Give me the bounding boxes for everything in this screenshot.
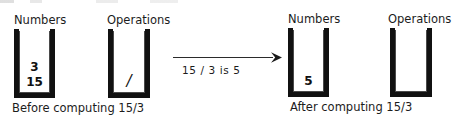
before-operations-stack-interior: / xyxy=(113,31,145,93)
arrow-label: 15 / 3 is 5 xyxy=(182,64,241,77)
after-numbers-stack-title: Numbers xyxy=(288,12,340,26)
stack-item: / xyxy=(126,73,131,90)
after-numbers-stack-interior: 5 xyxy=(293,30,324,92)
after-numbers-stack[interactable]: 5 xyxy=(288,28,329,97)
stack-item: 5 xyxy=(304,74,312,89)
figure-canvas: Numbers 3 15 Operations / Before computi… xyxy=(0,0,460,120)
scan-artifact xyxy=(0,0,460,3)
after-caption: After computing 15/3 xyxy=(290,100,412,114)
before-numbers-stack-interior: 3 15 xyxy=(19,31,50,93)
after-operations-stack-title: Operations xyxy=(388,12,451,26)
before-caption: Before computing 15/3 xyxy=(12,101,144,115)
stack-item: 15 xyxy=(26,75,43,90)
after-operations-stack[interactable] xyxy=(390,28,432,97)
stack-item: 3 xyxy=(30,60,38,75)
before-numbers-stack[interactable]: 3 15 xyxy=(14,29,55,98)
before-numbers-stack-title: Numbers xyxy=(14,13,66,27)
before-operations-stack-title: Operations xyxy=(107,13,170,27)
before-operations-stack[interactable]: / xyxy=(108,29,150,98)
after-operations-stack-interior xyxy=(395,30,427,92)
